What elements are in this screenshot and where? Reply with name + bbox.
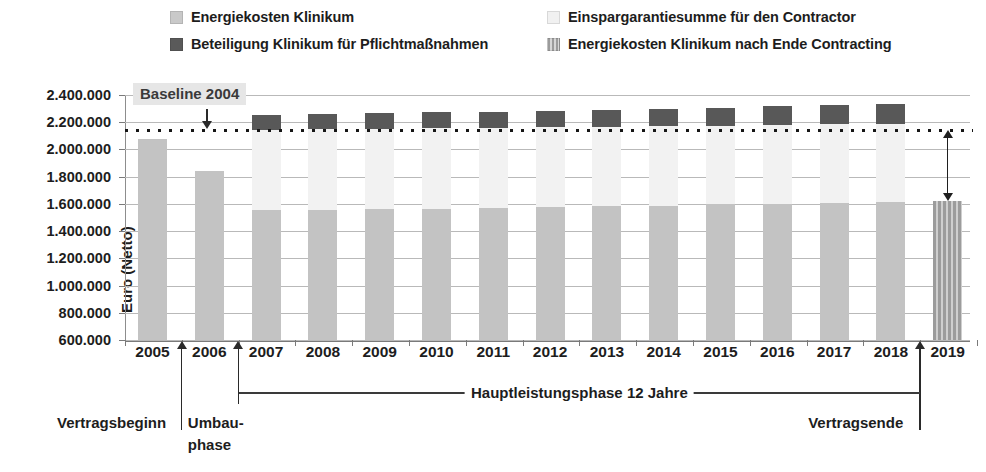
- legend-label: Einspargarantiesumme für den Contractor: [568, 10, 856, 25]
- segment-beteiligung-klinikum: [820, 105, 849, 124]
- einspargarantiesumme-swatch: [547, 11, 560, 24]
- y-tick-label: 2.000.000: [7, 141, 111, 157]
- y-tick-label: 1.600.000: [7, 196, 111, 212]
- segment-energiekosten-klinikum: [252, 210, 281, 340]
- segment-einspargarantiesumme: [252, 130, 281, 210]
- segment-nach-ende-contracting: [933, 201, 962, 340]
- x-tick-label-2015: 2015: [703, 343, 737, 361]
- legend-item-energiekosten-klinikum: Energiekosten Klinikum: [170, 10, 354, 25]
- vertragsbeginn-label: Vertragsbeginn: [57, 414, 166, 431]
- segment-energiekosten-klinikum: [592, 206, 621, 340]
- x-tick-label-2006: 2006: [192, 343, 226, 361]
- segment-energiekosten-klinikum: [536, 207, 565, 340]
- segment-energiekosten-klinikum: [706, 204, 735, 340]
- segment-energiekosten-klinikum: [820, 203, 849, 340]
- segment-beteiligung-klinikum: [365, 113, 394, 129]
- segment-einspargarantiesumme: [706, 126, 735, 205]
- x-tick-label-2007: 2007: [249, 343, 283, 361]
- legend-item-einspargarantiesumme: Einspargarantiesumme für den Contractor: [547, 10, 856, 25]
- segment-energiekosten-klinikum: [195, 171, 224, 340]
- gridline: [125, 340, 970, 341]
- segment-einspargarantiesumme: [422, 128, 451, 208]
- segment-einspargarantiesumme: [820, 124, 849, 202]
- y-tick-mark: [119, 122, 125, 123]
- segment-energiekosten-klinikum: [138, 139, 167, 340]
- hauptleistungsphase-label: Hauptleistungsphase 12 Jahre: [465, 384, 694, 401]
- y-tick-label: 1.000.000: [7, 278, 111, 294]
- y-tick-mark: [119, 204, 125, 205]
- nach-ende-contracting-swatch: [547, 38, 560, 51]
- umbauphase-divider: [238, 372, 240, 404]
- vertragsende-label: Vertragsende: [808, 414, 903, 431]
- y-tick-mark: [119, 286, 125, 287]
- segment-einspargarantiesumme: [649, 126, 678, 206]
- x-tick-label-2005: 2005: [135, 343, 169, 361]
- umbauphase-label-line2: phase: [188, 436, 231, 453]
- x-tick-label-2013: 2013: [590, 343, 624, 361]
- y-tick-mark: [119, 95, 125, 96]
- segment-einspargarantiesumme: [763, 125, 792, 204]
- y-tick-mark: [119, 258, 125, 259]
- segment-beteiligung-klinikum: [706, 108, 735, 126]
- x-axis-labels: 2005200620072008200920102011201220132014…: [125, 343, 970, 369]
- y-tick-mark: [119, 177, 125, 178]
- segment-energiekosten-klinikum: [308, 210, 337, 340]
- segment-beteiligung-klinikum: [592, 110, 621, 127]
- segment-einspargarantiesumme: [479, 128, 508, 208]
- legend-label: Energiekosten Klinikum nach Ende Contrac…: [568, 37, 892, 52]
- segment-energiekosten-klinikum: [422, 209, 451, 340]
- segment-beteiligung-klinikum: [763, 106, 792, 125]
- baseline-2004-label: Baseline 2004: [133, 83, 246, 105]
- x-tick-label-2017: 2017: [817, 343, 851, 361]
- segment-energiekosten-klinikum: [365, 209, 394, 340]
- x-tick-label-2018: 2018: [874, 343, 908, 361]
- segment-energiekosten-klinikum: [479, 208, 508, 340]
- vertragsbeginn-divider: [181, 372, 183, 430]
- chart-legend: Energiekosten Klinikum Beteiligung Klini…: [0, 0, 986, 62]
- x-tick-label-2008: 2008: [306, 343, 340, 361]
- plot-area: Euro (Netto) 2.400.0002.200.0002.000.000…: [125, 95, 970, 340]
- y-tick-label: 1.200.000: [7, 250, 111, 266]
- y-tick-label: 600.000: [7, 332, 111, 348]
- beteiligung-swatch: [170, 38, 183, 51]
- segment-energiekosten-klinikum: [763, 204, 792, 340]
- segment-einspargarantiesumme: [308, 129, 337, 210]
- y-tick-label: 800.000: [7, 305, 111, 321]
- baseline-2004-line: [121, 128, 973, 133]
- segment-energiekosten-klinikum: [649, 206, 678, 340]
- segment-beteiligung-klinikum: [876, 104, 905, 124]
- y-axis-title: Euro (Netto): [118, 226, 135, 313]
- legend-item-nach-ende-contracting: Energiekosten Klinikum nach Ende Contrac…: [547, 37, 892, 52]
- y-tick-mark: [119, 313, 125, 314]
- segment-beteiligung-klinikum: [422, 112, 451, 128]
- savings-double-arrow-icon: [947, 137, 949, 194]
- segment-beteiligung-klinikum: [536, 111, 565, 127]
- y-tick-label: 1.800.000: [7, 169, 111, 185]
- gridline: [125, 95, 970, 96]
- x-tick-label-2016: 2016: [760, 343, 794, 361]
- segment-beteiligung-klinikum: [479, 112, 508, 128]
- energiekosten-swatch: [170, 11, 183, 24]
- y-tick-mark: [119, 231, 125, 232]
- y-tick-label: 2.400.000: [7, 87, 111, 103]
- x-tick-label-2010: 2010: [419, 343, 453, 361]
- segment-einspargarantiesumme: [876, 124, 905, 202]
- x-tick-label-2014: 2014: [646, 343, 680, 361]
- x-tick-mark: [977, 340, 978, 346]
- x-tick-label-2012: 2012: [533, 343, 567, 361]
- x-tick-label-2009: 2009: [362, 343, 396, 361]
- energy-contracting-chart: Energiekosten Klinikum Beteiligung Klini…: [0, 0, 986, 472]
- vertragsende-divider: [919, 372, 921, 430]
- y-tick-label: 1.400.000: [7, 223, 111, 239]
- umbauphase-label-line1: Umbau-: [188, 414, 244, 431]
- segment-energiekosten-klinikum: [876, 202, 905, 340]
- segment-beteiligung-klinikum: [308, 114, 337, 129]
- legend-item-beteiligung-klinikum: Beteiligung Klinikum für Pflichtmaßnahme…: [170, 37, 488, 52]
- legend-label: Beteiligung Klinikum für Pflichtmaßnahme…: [191, 37, 488, 52]
- segment-beteiligung-klinikum: [649, 109, 678, 126]
- segment-einspargarantiesumme: [536, 127, 565, 207]
- baseline-callout-arrow-icon: [206, 109, 208, 122]
- y-tick-label: 2.200.000: [7, 114, 111, 130]
- x-tick-label-2019: 2019: [930, 343, 964, 361]
- segment-einspargarantiesumme: [592, 127, 621, 207]
